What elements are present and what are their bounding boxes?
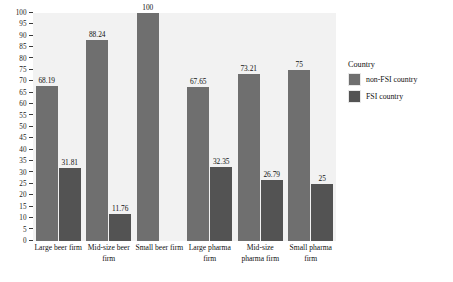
y-axis-tick-label: 40	[19, 145, 26, 155]
bar-group: 7525	[288, 13, 333, 241]
y-axis-tick-label: 0	[23, 236, 27, 246]
y-axis-tick: 45	[19, 133, 33, 143]
y-axis-tick-label: 100	[16, 8, 27, 18]
y-axis-tick-label: 55	[19, 111, 26, 121]
y-axis-tick: 50	[19, 122, 33, 132]
y-axis-tick: 75	[19, 65, 33, 75]
y-axis-tick: 85	[19, 42, 33, 52]
bar[interactable]	[210, 167, 232, 241]
y-axis-tick-label: 75	[19, 65, 26, 75]
y-axis-tick-label: 35	[19, 156, 26, 166]
bar[interactable]	[109, 214, 131, 241]
bar-group: 73.2126.79	[238, 13, 283, 241]
y-axis-tick: 10	[19, 213, 33, 223]
legend-title: Country	[348, 60, 448, 69]
y-axis-tick: 40	[19, 145, 33, 155]
bar[interactable]	[311, 184, 333, 241]
bar-group: 68.1931.81	[36, 13, 81, 241]
legend: Country non-FSI country FSI country	[348, 60, 448, 107]
y-axis-tick: 95	[19, 19, 33, 29]
y-axis-tick: 15	[19, 202, 33, 212]
bar-group: 88.2411.76	[86, 13, 131, 241]
y-axis-tick-label: 45	[19, 133, 26, 143]
bar[interactable]	[59, 168, 81, 241]
legend-item-label: FSI country	[366, 92, 403, 101]
x-axis-label: Large pharma firm	[185, 243, 236, 264]
bar[interactable]	[261, 180, 283, 241]
bar[interactable]	[238, 74, 260, 241]
legend-swatch-icon	[348, 73, 361, 86]
y-axis-tick: 80	[19, 54, 33, 64]
y-axis-tick: 30	[19, 168, 33, 178]
x-axis-label: Mid-size beer firm	[84, 243, 135, 264]
y-axis-tick-label: 95	[19, 19, 26, 29]
y-axis-tick-label: 90	[19, 31, 26, 41]
legend-item-non-fsi-country[interactable]: non-FSI country	[348, 73, 448, 86]
bar[interactable]	[288, 70, 310, 241]
bar-value-label: 67.65	[175, 77, 221, 86]
x-axis-label: Large beer firm	[33, 243, 84, 254]
y-axis-tick-label: 15	[19, 202, 26, 212]
bar[interactable]	[137, 13, 159, 241]
y-axis-tick-label: 10	[19, 213, 26, 223]
x-axis-label: Mid-size pharma firm	[235, 243, 286, 264]
y-axis-tick-label: 60	[19, 99, 26, 109]
x-axis-label: Small pharma firm	[286, 243, 337, 264]
bar-value-label: 25	[299, 174, 345, 183]
y-axis-tick: 55	[19, 111, 33, 121]
legend-item-label: non-FSI country	[366, 75, 417, 84]
bar-value-label: 68.19	[24, 76, 70, 85]
bar-value-label: 73.21	[226, 64, 272, 73]
y-axis-tick: 35	[19, 156, 33, 166]
y-axis-tick-label: 65	[19, 88, 26, 98]
x-axis: Large beer firmMid-size beer firmSmall b…	[33, 243, 336, 278]
y-axis-tick-label: 25	[19, 179, 26, 189]
y-axis: 0510152025303540455055606570758085909510…	[0, 13, 33, 241]
bar-group: 67.6532.35	[187, 13, 232, 241]
y-axis-tick: 90	[19, 31, 33, 41]
bar-value-label: 88.24	[74, 30, 120, 39]
plot-area: 68.1931.8188.2411.7610067.6532.3573.2126…	[33, 13, 336, 241]
legend-swatch-icon	[348, 90, 361, 103]
bar-value-label: 100	[125, 3, 171, 12]
y-axis-tick: 25	[19, 179, 33, 189]
y-axis-tick: 65	[19, 88, 33, 98]
y-axis-tick: 0	[23, 236, 33, 246]
y-axis-tick: 100	[16, 8, 33, 18]
legend-item-fsi-country[interactable]: FSI country	[348, 90, 448, 103]
bar-value-label: 75	[276, 60, 322, 69]
y-axis-tick: 20	[19, 190, 33, 200]
bar-chart: 0510152025303540455055606570758085909510…	[0, 0, 453, 282]
y-axis-tick: 60	[19, 99, 33, 109]
bar-group: 100	[137, 13, 182, 241]
y-axis-tick: 5	[23, 225, 33, 235]
y-axis-tick-label: 80	[19, 54, 26, 64]
y-axis-tick-label: 20	[19, 190, 26, 200]
y-axis-tick-label: 85	[19, 42, 26, 52]
y-axis-tick-label: 30	[19, 168, 26, 178]
x-axis-label: Small beer firm	[134, 243, 185, 254]
y-axis-tick-label: 50	[19, 122, 26, 132]
y-axis-tick-label: 5	[23, 225, 27, 235]
